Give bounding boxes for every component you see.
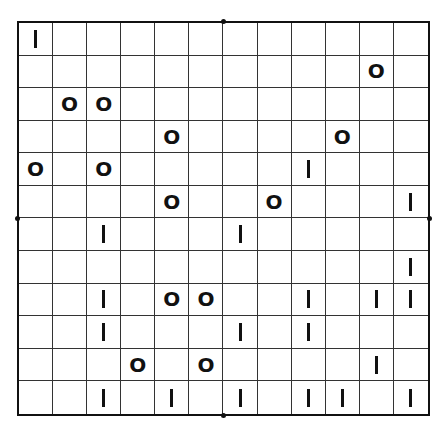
grid-cell-r9-c3[interactable] (121, 316, 155, 349)
grid-cell-r1-c9[interactable] (326, 56, 360, 89)
grid-cell-r9-c5[interactable] (189, 316, 223, 349)
grid-cell-r4-c6[interactable] (223, 153, 257, 186)
grid-cell-r3-c0[interactable] (19, 121, 53, 154)
grid-cell-r9-c7[interactable] (258, 316, 292, 349)
grid-cell-r11-c7[interactable] (258, 381, 292, 414)
grid-cell-r3-c3[interactable] (121, 121, 155, 154)
grid-cell-r2-c0[interactable] (19, 88, 53, 121)
grid-cell-r6-c0[interactable] (19, 218, 53, 251)
grid-cell-r10-c0[interactable] (19, 349, 53, 382)
grid-cell-r7-c6[interactable] (223, 251, 257, 284)
grid-cell-r4-c1[interactable] (53, 153, 87, 186)
grid-cell-r3-c7[interactable] (258, 121, 292, 154)
grid-cell-r1-c5[interactable] (189, 56, 223, 89)
grid-cell-r8-c6[interactable] (223, 284, 257, 317)
grid-cell-r0-c6[interactable] (223, 23, 257, 56)
grid-cell-r5-c10[interactable] (360, 186, 394, 219)
grid-cell-r10-c7[interactable] (258, 349, 292, 382)
grid-cell-r0-c5[interactable] (189, 23, 223, 56)
grid-cell-r11-c10[interactable] (360, 381, 394, 414)
grid-cell-r9-c0[interactable] (19, 316, 53, 349)
grid-cell-r0-c4[interactable] (155, 23, 189, 56)
grid-cell-r11-c3[interactable] (121, 381, 155, 414)
grid-cell-r3-c2[interactable] (87, 121, 121, 154)
grid-cell-r9-c4[interactable] (155, 316, 189, 349)
grid-cell-r1-c2[interactable] (87, 56, 121, 89)
grid-cell-r6-c1[interactable] (53, 218, 87, 251)
grid-cell-r8-c0[interactable] (19, 284, 53, 317)
grid-cell-r2-c6[interactable] (223, 88, 257, 121)
grid-cell-r6-c10[interactable] (360, 218, 394, 251)
grid-cell-r10-c9[interactable] (326, 349, 360, 382)
grid-cell-r2-c8[interactable] (292, 88, 326, 121)
grid-cell-r4-c5[interactable] (189, 153, 223, 186)
grid-cell-r10-c11[interactable] (394, 349, 428, 382)
grid-cell-r0-c2[interactable] (87, 23, 121, 56)
grid-cell-r10-c2[interactable] (87, 349, 121, 382)
grid-cell-r7-c7[interactable] (258, 251, 292, 284)
grid-cell-r3-c5[interactable] (189, 121, 223, 154)
grid-cell-r3-c11[interactable] (394, 121, 428, 154)
grid-cell-r1-c11[interactable] (394, 56, 428, 89)
grid-cell-r6-c4[interactable] (155, 218, 189, 251)
grid-cell-r4-c10[interactable] (360, 153, 394, 186)
grid-cell-r6-c5[interactable] (189, 218, 223, 251)
grid-cell-r7-c0[interactable] (19, 251, 53, 284)
grid-cell-r3-c1[interactable] (53, 121, 87, 154)
grid-cell-r1-c0[interactable] (19, 56, 53, 89)
grid-cell-r5-c2[interactable] (87, 186, 121, 219)
grid-cell-r5-c3[interactable] (121, 186, 155, 219)
grid-cell-r2-c10[interactable] (360, 88, 394, 121)
grid-cell-r8-c9[interactable] (326, 284, 360, 317)
grid-cell-r1-c3[interactable] (121, 56, 155, 89)
grid-cell-r0-c7[interactable] (258, 23, 292, 56)
grid-cell-r4-c11[interactable] (394, 153, 428, 186)
grid-cell-r4-c3[interactable] (121, 153, 155, 186)
grid-cell-r11-c0[interactable] (19, 381, 53, 414)
grid-cell-r7-c3[interactable] (121, 251, 155, 284)
grid-cell-r7-c4[interactable] (155, 251, 189, 284)
grid-cell-r1-c1[interactable] (53, 56, 87, 89)
grid-cell-r0-c3[interactable] (121, 23, 155, 56)
grid-cell-r8-c1[interactable] (53, 284, 87, 317)
grid-cell-r0-c10[interactable] (360, 23, 394, 56)
grid-cell-r6-c11[interactable] (394, 218, 428, 251)
grid-cell-r7-c2[interactable] (87, 251, 121, 284)
grid-cell-r4-c9[interactable] (326, 153, 360, 186)
grid-cell-r7-c1[interactable] (53, 251, 87, 284)
grid-cell-r3-c10[interactable] (360, 121, 394, 154)
grid-cell-r5-c1[interactable] (53, 186, 87, 219)
grid-cell-r5-c0[interactable] (19, 186, 53, 219)
grid-cell-r4-c4[interactable] (155, 153, 189, 186)
grid-cell-r6-c9[interactable] (326, 218, 360, 251)
grid-cell-r2-c5[interactable] (189, 88, 223, 121)
grid-cell-r5-c9[interactable] (326, 186, 360, 219)
grid-cell-r1-c7[interactable] (258, 56, 292, 89)
grid-cell-r3-c8[interactable] (292, 121, 326, 154)
grid-cell-r5-c8[interactable] (292, 186, 326, 219)
grid-cell-r6-c8[interactable] (292, 218, 326, 251)
grid-cell-r2-c7[interactable] (258, 88, 292, 121)
grid-cell-r4-c7[interactable] (258, 153, 292, 186)
grid-cell-r8-c3[interactable] (121, 284, 155, 317)
grid-cell-r10-c6[interactable] (223, 349, 257, 382)
grid-cell-r9-c1[interactable] (53, 316, 87, 349)
grid-cell-r11-c5[interactable] (189, 381, 223, 414)
grid-cell-r6-c7[interactable] (258, 218, 292, 251)
grid-cell-r11-c1[interactable] (53, 381, 87, 414)
grid-cell-r6-c3[interactable] (121, 218, 155, 251)
grid-cell-r1-c6[interactable] (223, 56, 257, 89)
grid-cell-r2-c9[interactable] (326, 88, 360, 121)
grid-cell-r1-c4[interactable] (155, 56, 189, 89)
grid-cell-r7-c10[interactable] (360, 251, 394, 284)
grid-cell-r0-c1[interactable] (53, 23, 87, 56)
grid-cell-r0-c11[interactable] (394, 23, 428, 56)
grid-cell-r9-c11[interactable] (394, 316, 428, 349)
grid-cell-r9-c9[interactable] (326, 316, 360, 349)
grid-cell-r2-c11[interactable] (394, 88, 428, 121)
grid-cell-r9-c10[interactable] (360, 316, 394, 349)
grid-cell-r5-c6[interactable] (223, 186, 257, 219)
grid-cell-r8-c7[interactable] (258, 284, 292, 317)
grid-cell-r2-c3[interactable] (121, 88, 155, 121)
grid-cell-r0-c8[interactable] (292, 23, 326, 56)
